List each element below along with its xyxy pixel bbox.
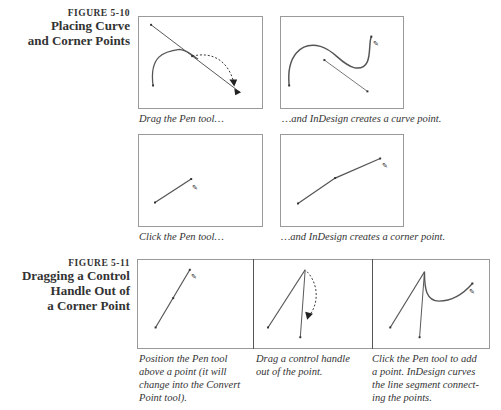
figure-5-11-frame: ✎ ✎	[137, 259, 490, 349]
panel-caption: Click the Pen tool to add a point. InDes…	[372, 352, 479, 404]
caption-line: Point tool).	[139, 391, 240, 404]
figure-title-line: and Corner Points	[28, 33, 130, 48]
caption-line: the line segment connect-	[372, 378, 479, 391]
figure-5-10-label: FIGURE 5-10 Placing Curve and Corner Poi…	[28, 8, 130, 48]
caption-line: ing the points.	[372, 391, 479, 404]
panel-caption: Drag the Pen tool…	[139, 112, 224, 125]
curve-point-icon: ✎	[281, 17, 403, 108]
figure-number: FIGURE 5-11	[22, 258, 130, 268]
illustration-curve-point-created: ✎	[280, 16, 404, 109]
illustration-pen-drag-curve-handle	[138, 16, 263, 109]
panel-caption: …and InDesign creates a corner point.	[281, 230, 445, 243]
caption-line: above a point (it will	[139, 365, 240, 378]
figure-number: FIGURE 5-10	[28, 8, 130, 18]
caption-line: Drag a control handle	[256, 352, 350, 365]
svg-text:✎: ✎	[469, 288, 475, 296]
pen-cursor-icon: ✎	[382, 162, 388, 170]
svg-text:✎: ✎	[191, 273, 197, 281]
panel-caption: …and InDesign creates a curve point.	[282, 112, 441, 125]
figure-title-line: Placing Curve	[28, 18, 130, 33]
figure-title-line: Dragging a Control	[22, 268, 130, 283]
control-handle-sequence-icon: ✎ ✎	[138, 260, 489, 348]
panel-caption: Click the Pen tool…	[139, 230, 224, 243]
figure-5-11-label: FIGURE 5-11 Dragging a Control Handle Ou…	[22, 258, 130, 313]
illustration-pen-click-segment: ✎	[138, 134, 263, 227]
caption-line: a point. InDesign curves	[372, 365, 479, 378]
illustration-corner-point-created: ✎	[280, 134, 404, 227]
panel-divider	[372, 259, 373, 349]
panel-caption: Drag a control handle out of the point.	[256, 352, 350, 378]
panel-divider	[253, 259, 254, 349]
caption-line: out of the point.	[256, 365, 350, 378]
pen-cursor-icon: ✎	[192, 184, 198, 192]
pen-click-icon: ✎	[139, 135, 262, 226]
corner-point-icon: ✎	[281, 135, 403, 226]
caption-line: Position the Pen tool	[139, 352, 240, 365]
panel-caption: Position the Pen tool above a point (it …	[139, 352, 240, 404]
figure-title-line: a Corner Point	[22, 298, 130, 313]
caption-line: Click the Pen tool to add	[372, 352, 479, 365]
pen-drag-icon	[139, 17, 262, 108]
figure-title-line: Handle Out of	[22, 283, 130, 298]
pen-cursor-icon: ✎	[373, 40, 379, 48]
caption-line: change into the Convert	[139, 378, 240, 391]
